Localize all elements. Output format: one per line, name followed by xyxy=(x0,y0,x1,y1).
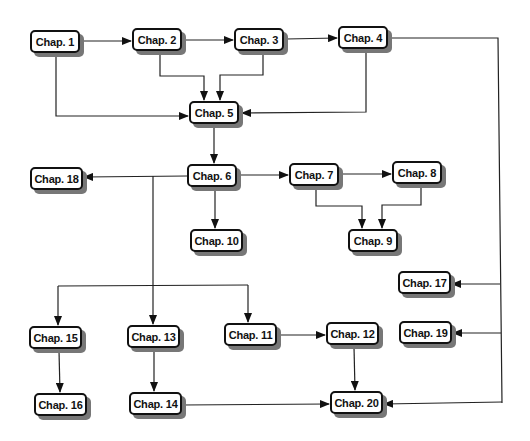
edge-ch8-ch9 xyxy=(382,186,421,228)
node-chap-10: Chap. 10 xyxy=(190,229,243,252)
node-chap-16: Chap. 16 xyxy=(34,393,87,416)
node-chap-12: Chap. 12 xyxy=(326,322,379,345)
node-chap-2: Chap. 2 xyxy=(132,28,182,51)
node-chap-20: Chap. 20 xyxy=(330,391,383,414)
node-chap-15: Chap. 15 xyxy=(29,326,82,349)
node-chap-18: Chap. 18 xyxy=(30,167,83,190)
edge-ch4-rail xyxy=(390,38,502,403)
node-chap-7: Chap. 7 xyxy=(289,163,339,186)
edge-ch14-ch20 xyxy=(182,404,329,405)
edge-ch3-ch5 xyxy=(220,53,263,100)
node-chap-17: Chap. 17 xyxy=(398,271,451,294)
diagram-connectors xyxy=(0,0,530,441)
edge-ch15-ch16 xyxy=(59,351,60,392)
edge-branch-bus xyxy=(58,285,248,286)
edge-ch1-ch5 xyxy=(56,55,188,116)
node-chap-14: Chap. 14 xyxy=(129,392,182,415)
node-chap-5: Chap. 5 xyxy=(189,101,239,124)
edge-rail-ch20 xyxy=(384,402,502,404)
node-chap-1: Chap. 1 xyxy=(30,30,80,53)
node-chap-4: Chap. 4 xyxy=(338,26,388,49)
node-chap-8: Chap. 8 xyxy=(392,161,442,184)
node-chap-19: Chap. 19 xyxy=(399,321,452,344)
edge-ch6-ch18 xyxy=(84,176,187,177)
edge-ch3-ch4 xyxy=(286,38,337,39)
edge-ch4-ch5 xyxy=(242,51,366,113)
edge-ch12-ch20 xyxy=(354,347,355,390)
edge-ch7-ch9 xyxy=(316,188,362,228)
edge-ch2-ch5 xyxy=(160,53,204,100)
node-chap-9: Chap. 9 xyxy=(348,229,398,252)
node-chap-13: Chap. 13 xyxy=(127,325,180,348)
node-chap-3: Chap. 3 xyxy=(234,28,284,51)
node-chap-11: Chap. 11 xyxy=(224,323,277,346)
node-chap-6: Chap. 6 xyxy=(187,164,237,187)
